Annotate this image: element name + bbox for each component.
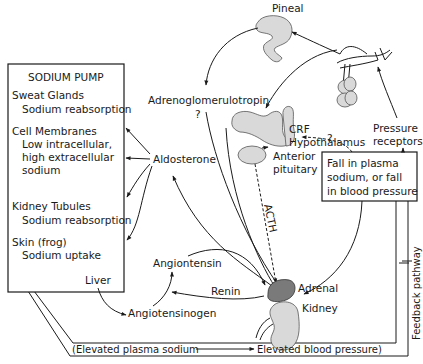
pineal-gland-icon (256, 16, 292, 62)
sodium-pump-box: SODIUM PUMP Sweat Glands Sodium reabsorp… (8, 64, 132, 292)
cell-membranes-effect-1: Low intracellular, (22, 138, 112, 150)
cell-membranes-label: Cell Membranes (12, 125, 97, 137)
pressure-receptors-label-2: receptors (373, 135, 423, 147)
pineal-label: Pineal (272, 2, 304, 14)
arrow-crf-to-pituitary (262, 147, 268, 148)
question-mark-2: ? (327, 132, 333, 144)
kidney-tubules-label: Kidney Tubules (12, 200, 91, 212)
question-mark-1: ? (195, 108, 201, 120)
sweat-glands-effect: Sodium reabsorption (22, 103, 132, 115)
skin-frog-label: Skin (frog) (12, 236, 67, 248)
kidney-tubules-effect: Sodium reabsorption (22, 214, 132, 226)
pressure-receptors-label-1: Pressure (373, 122, 418, 134)
arrow-pineal-to-adrenoglomerulotropin (206, 28, 258, 85)
liver-label: Liver (85, 274, 111, 286)
sodium-regulation-diagram: SODIUM PUMP Sweat Glands Sodium reabsorp… (0, 0, 423, 364)
arrow-aldosterone-to-cell-membranes (126, 158, 150, 159)
feedback-pathway-label: Feedback pathway (411, 246, 422, 340)
arrow-angiotensinogen-to-angiontensin (153, 272, 172, 306)
fall-in-plasma-sodium-box: Fall in plasma sodium, or fall in blood … (322, 152, 418, 201)
elevated-blood-pressure-label: Elevated blood pressure) (257, 344, 382, 355)
anterior-pituitary-icon (238, 146, 266, 164)
renin-label: Renin (211, 285, 241, 297)
crf-label: CRF (289, 123, 310, 135)
elevated-plasma-sodium-label: (Elevated plasma sodium (72, 344, 199, 355)
anterior-pituitary-label-1: Anterior (273, 150, 316, 162)
arrow-aldosterone-to-kidney-tubules (127, 164, 150, 197)
angiotensinogen-label: Angiotensinogen (128, 307, 216, 319)
carotid-structure-icon (337, 48, 392, 107)
angiontensin-label: Angiontensin (153, 257, 222, 269)
sodium-pump-title: SODIUM PUMP (28, 71, 104, 83)
arrow-aldosterone-to-sweat-glands (126, 128, 150, 154)
arrow-receptors-to-nerve (378, 67, 397, 118)
cell-membranes-effect-3: sodium (22, 164, 60, 176)
cell-membranes-effect-2: high extracellular (22, 151, 115, 163)
sweat-glands-label: Sweat Glands (12, 89, 84, 101)
arrow-fall-to-kidney (304, 201, 362, 294)
fall-box-line-1: Fall in plasma (327, 157, 399, 169)
kidney-icon (270, 302, 299, 350)
hypothalamus-icon (232, 111, 289, 146)
anterior-pituitary-label-2: pituitary (273, 163, 317, 175)
arrow-adrenal-to-aldosterone (173, 176, 272, 286)
skin-frog-effect: Sodium uptake (22, 249, 101, 261)
adrenoglomerulotropin-label: Adrenoglomerulotropin (148, 94, 269, 106)
fall-box-line-3: in blood pressure (327, 185, 418, 197)
nerve-line (340, 47, 367, 55)
adrenal-label: Adrenal (298, 282, 338, 294)
fall-box-line-2: sodium, or fall (327, 171, 402, 183)
kidney-label: Kidney (302, 302, 338, 314)
aldosterone-label: Aldosterone (153, 153, 216, 165)
